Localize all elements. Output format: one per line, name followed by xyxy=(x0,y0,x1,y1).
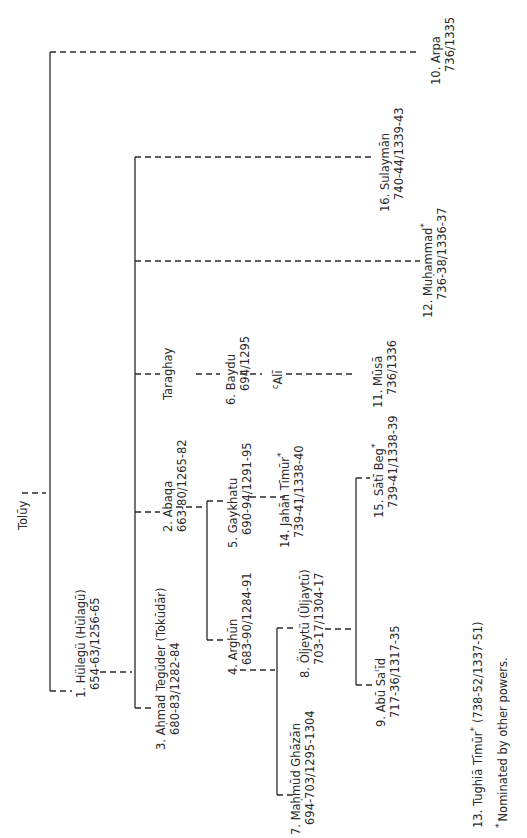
node-oljeytu: 8. Öljeytü (Ūljaytū) 703-17/1304-17 xyxy=(296,569,326,678)
footnote-nominated: *Nominated by other powers. xyxy=(494,657,510,828)
nominated-star: * xyxy=(276,452,286,457)
nominated-text: Nominated by other powers. xyxy=(496,657,510,821)
node-dates: 703-17/1304-17 xyxy=(312,572,326,665)
node-ghazan: 7. Maḥmūd Ghāzān 694-703/1295-1304 xyxy=(289,710,317,835)
name-text: Alī xyxy=(271,370,285,385)
star-symbol: * xyxy=(494,823,504,828)
name-text: 14. Jahān Tīmūr xyxy=(278,457,292,548)
footnotes: 13. Tughiā Tīmūr*(738-52/1337-51) *Nomin… xyxy=(469,621,510,828)
node-dates: 694-703/1295-1304 xyxy=(303,710,317,825)
node-name: 2. Abaqa xyxy=(161,481,175,532)
node-name: 3. Aḥmad Tegüder (Tokūdār) xyxy=(154,587,168,750)
node-dates: 694/1295 xyxy=(238,336,252,391)
node-name: 5. Gaykhatu xyxy=(226,478,240,548)
node-dates: 739-41/1338-39 xyxy=(386,415,400,508)
node-baydu: 6. Baydu 694/1295 xyxy=(224,336,252,405)
node-hulegu: 1. Hülegü (Hūlagū) 654-63/1256-65 xyxy=(74,589,102,698)
node-sati-beg: 15. Sātī Beg* 739-41/1338-39 xyxy=(370,415,400,518)
node-name: 6. Baydu xyxy=(224,354,238,405)
node-name: 9. Abū Saʿīd xyxy=(374,658,388,727)
node-dates: 663-80/1265-82 xyxy=(175,439,189,532)
node-arpa: 10. Arpa 736/1335 xyxy=(429,17,457,85)
name-text: 15. Sātī Beg xyxy=(372,448,386,518)
node-dates: 717-36/1317-35 xyxy=(388,625,402,718)
node-ahmad: 3. Aḥmad Tegüder (Tokūdār) 680-83/1282-8… xyxy=(154,587,182,750)
toluy-label: Tolūy xyxy=(16,500,30,531)
node-name: 7. Maḥmūd Ghāzān xyxy=(289,723,303,835)
node-name: 1. Hülegü (Hūlagū) xyxy=(74,589,88,698)
node-ali: cAlī xyxy=(271,370,285,389)
node-arghun: 4. Arghūn 683-90/1284-91 xyxy=(226,572,254,675)
node-name: 8. Öljeytü (Ūljaytū) xyxy=(296,569,312,678)
node-taraghay: Taraghay xyxy=(161,347,175,401)
node-musa: 11. Mūsā 736/1336 xyxy=(371,340,399,408)
node-name: 4. Arghūn xyxy=(226,619,240,675)
node-abaqa: 2. Abaqa 663-80/1265-82 xyxy=(161,439,189,532)
node-dates: 680-83/1282-84 xyxy=(168,642,182,735)
footnote-tughia: 13. Tughiā Tīmūr*(738-52/1337-51) xyxy=(469,621,485,828)
node-dates: 736-38/1336-37 xyxy=(435,207,449,300)
node-name: 14. Jahān Tīmūr* xyxy=(276,452,292,548)
node-dates: 739-41/1338-40 xyxy=(292,445,306,538)
genealogy-tree: Tolūy 1. Hülegü (Hūlagū) 654-63/1256-65 … xyxy=(0,0,527,838)
node-dates: 736/1336 xyxy=(385,340,399,395)
nominated-star: * xyxy=(419,223,429,228)
node-dates: 683-90/1284-91 xyxy=(240,572,254,665)
node-dates: 690-94/1291-95 xyxy=(240,442,254,535)
node-muhammad: 12. Muḥammad* 736-38/1336-37 xyxy=(419,207,449,318)
node-sulayman: 16. Sulaymān 740-44/1339-43 xyxy=(378,107,406,212)
node-gaykhatu: 5. Gaykhatu 690-94/1291-95 xyxy=(226,442,254,548)
node-jahan-timur: 14. Jahān Tīmūr* 739-41/1338-40 xyxy=(276,445,306,548)
node-abusaid: 9. Abū Saʿīd 717-36/1317-35 xyxy=(374,625,402,727)
node-name: 11. Mūsā xyxy=(371,356,385,408)
node-name: 15. Sātī Beg* xyxy=(370,443,386,518)
name-text: 12. Muḥammad xyxy=(421,228,435,318)
node-name: 10. Arpa xyxy=(429,36,443,85)
tughia-name: 13. Tughiā Tīmūr xyxy=(471,731,485,828)
node-name: 16. Sulaymān xyxy=(378,133,392,212)
nominated-star: * xyxy=(469,727,479,732)
node-dates: 740-44/1339-43 xyxy=(392,107,406,200)
node-dates: 736/1335 xyxy=(443,17,457,72)
nominated-star: * xyxy=(370,443,380,448)
tughia-dates: (738-52/1337-51) xyxy=(471,621,485,723)
node-name: 12. Muḥammad* xyxy=(419,223,435,318)
node-dates: 654-63/1256-65 xyxy=(88,597,102,690)
